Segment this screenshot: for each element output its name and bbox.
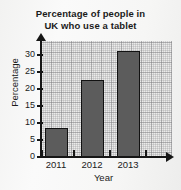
x-tick-left-2011 [41,150,43,156]
y-tick-label-0: 0 [14,152,35,161]
y-tick-15 [37,105,43,107]
chart-title-line-1: Percentage of people in [0,8,181,20]
chart-screenshot: Percentage of people in UK who use a tab… [0,0,181,190]
x-tick-2011-2012 [73,150,75,156]
y-tick-25 [37,71,43,73]
x-tick-label-2013: 2013 [111,159,145,170]
chart-title-line-2: UK who use a tablet [0,20,181,32]
y-axis-title: Percentage [9,43,20,123]
x-tick-right-2013 [145,150,147,156]
x-axis-title: Year [41,172,166,183]
y-tick-20 [37,88,43,90]
x-tick-label-2011: 2011 [39,159,73,170]
y-tick-label-5: 5 [14,135,35,144]
y-tick-5 [37,139,43,141]
bar-2012 [81,80,104,157]
chart-title: Percentage of people in UK who use a tab… [0,8,181,31]
x-axis-line [40,156,168,158]
y-axis-arrow-icon [36,33,46,41]
y-tick-10 [37,122,43,124]
bar-2013 [117,51,140,157]
x-tick-2012-2013 [109,150,111,156]
bar-2011 [45,128,68,157]
x-axis-arrow-icon [166,152,174,162]
y-tick-30 [37,54,43,56]
x-tick-label-2012: 2012 [75,159,109,170]
